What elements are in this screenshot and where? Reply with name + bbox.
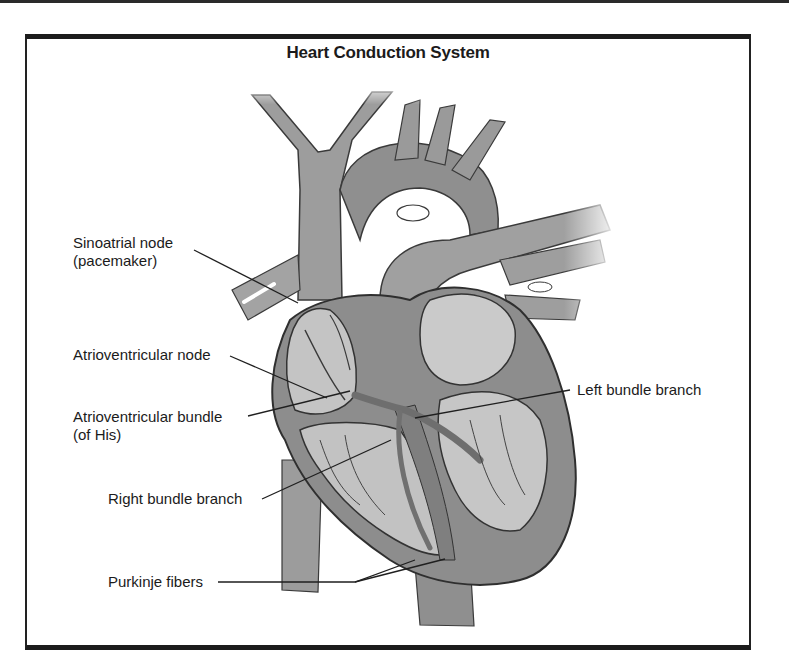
label-atrioventricular-bundle-line2: (of His) xyxy=(73,426,222,444)
label-right-bundle-branch-line1: Right bundle branch xyxy=(108,490,242,508)
label-left-bundle-branch: Left bundle branch xyxy=(577,381,701,399)
label-sinoatrial-node-line1: Sinoatrial node xyxy=(73,234,173,252)
label-atrioventricular-node-line1: Atrioventricular node xyxy=(73,346,211,364)
label-atrioventricular-node: Atrioventricular node xyxy=(73,346,211,364)
label-purkinje-fibers-line1: Purkinje fibers xyxy=(108,573,203,591)
label-atrioventricular-bundle: Atrioventricular bundle (of His) xyxy=(73,408,222,444)
label-sinoatrial-node: Sinoatrial node (pacemaker) xyxy=(73,234,173,270)
heart-illustration xyxy=(0,0,789,658)
label-left-bundle-branch-line1: Left bundle branch xyxy=(577,381,701,399)
label-purkinje-fibers: Purkinje fibers xyxy=(108,573,203,591)
label-atrioventricular-bundle-line1: Atrioventricular bundle xyxy=(73,408,222,426)
label-right-bundle-branch: Right bundle branch xyxy=(108,490,242,508)
label-sinoatrial-node-line2: (pacemaker) xyxy=(73,252,173,270)
